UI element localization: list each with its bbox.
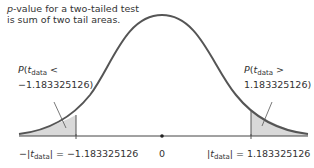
center-point [160,134,164,138]
right-axis-label: |tdata| = 1.183325126 [207,148,310,163]
center-axis-label: 0 [159,148,165,159]
right-tail-label: P(tdata > 1.183325126) [244,64,311,90]
left-axis-label: −|tdata| = −1.183325126 [19,148,138,163]
caption: p-value for a two-tailed test is sum of … [7,3,139,25]
left-tail-label: P(tdata < −1.183325126) [18,64,93,90]
